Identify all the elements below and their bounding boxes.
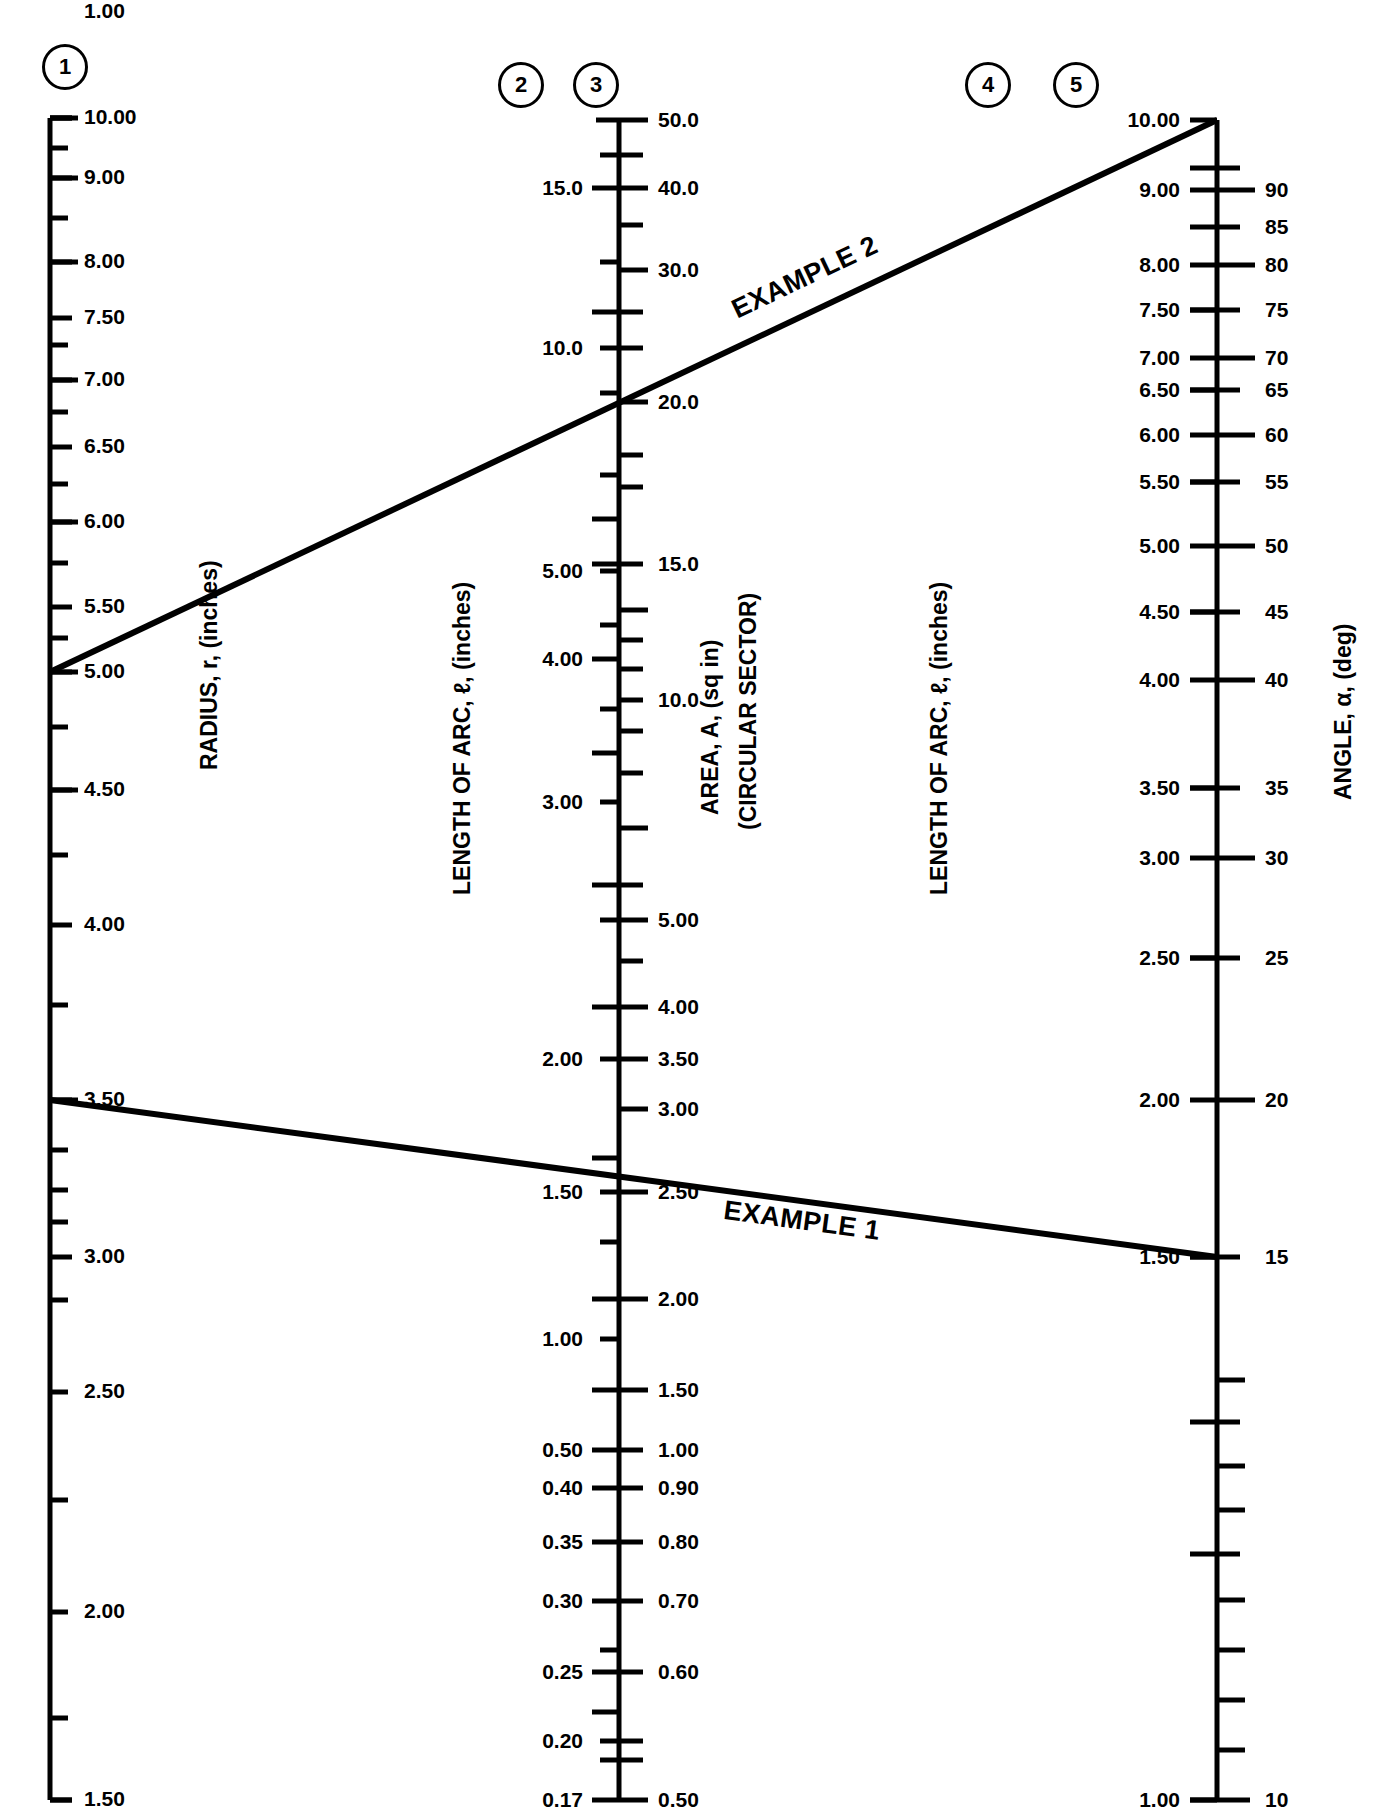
scale-4-tick-label: 3.50 (0, 777, 1180, 798)
scale-1-tick-label: 1.00 (84, 0, 125, 21)
scale-5-tick-label: 45 (1265, 601, 1288, 622)
scale-4-tick-label: 2.50 (0, 947, 1180, 968)
scale-3-tick-label: 1.00 (658, 1439, 699, 1460)
scale-5-tick-label: 25 (1265, 947, 1288, 968)
example-1-line (50, 1100, 1217, 1257)
scale-2-tick-label: 0.35 (0, 1531, 583, 1552)
scale-marker-4: 4 (965, 62, 1011, 108)
scale-4-tick-label: 1.00 (0, 1789, 1180, 1810)
scale-2-tick-label: 1.00 (0, 1328, 583, 1349)
scale-5-tick-label: 15 (1265, 1246, 1288, 1267)
scale-5-tick-label: 70 (1265, 347, 1288, 368)
scale-4-tick-label: 7.00 (0, 347, 1180, 368)
scale-3-tick-label: 1.50 (658, 1379, 699, 1400)
scale-3-tick-label: 0.60 (658, 1661, 699, 1682)
scale-5-tick-label: 90 (1265, 179, 1288, 200)
scale-3-tick-label: 3.50 (658, 1048, 699, 1069)
scale-4-tick-label: 10.00 (0, 109, 1180, 130)
scale-4-tick-label: 5.00 (0, 535, 1180, 556)
scale-4-tick-label: 9.00 (0, 179, 1180, 200)
scale-marker-3: 3 (573, 62, 619, 108)
scale-1-tick-label: 2.50 (84, 1380, 125, 1401)
scale-3-tick-label: 2.00 (658, 1288, 699, 1309)
scale-5-tick-label: 85 (1265, 216, 1288, 237)
scale-4-tick-label: 2.00 (0, 1089, 1180, 1110)
scale-5-tick-label: 50 (1265, 535, 1288, 556)
scale-5-tick-label: 60 (1265, 424, 1288, 445)
scale-2-tick-label: 0.20 (0, 1730, 583, 1751)
scale-5-ticks (1190, 168, 1255, 1800)
scale-5-tick-label: 75 (1265, 299, 1288, 320)
scale-3-tick-label: 15.0 (658, 553, 699, 574)
scale-5-tick-label: 80 (1265, 254, 1288, 275)
scale-marker-2: 2 (498, 62, 544, 108)
scale-1-tick-label: 6.00 (84, 510, 125, 531)
scale-3-tick-label: 0.80 (658, 1531, 699, 1552)
scale-3-tick-label: 4.00 (658, 996, 699, 1017)
scale-marker-5: 5 (1053, 62, 1099, 108)
scale-4-tick-label: 5.50 (0, 471, 1180, 492)
scale-5-tick-label: 40 (1265, 669, 1288, 690)
scale-5-tick-label: 65 (1265, 379, 1288, 400)
scale-4-tick-label: 4.00 (0, 669, 1180, 690)
scale-5-tick-label: 10 (1265, 1789, 1288, 1810)
scale-2-tick-label: 1.50 (0, 1181, 583, 1202)
scale-4-tick-label: 3.00 (0, 847, 1180, 868)
scale-2-tick-label: 0.30 (0, 1590, 583, 1611)
scale-2-tick-label: 0.25 (0, 1661, 583, 1682)
scale-5-tick-label: 35 (1265, 777, 1288, 798)
scale-1-tick-label: 4.00 (84, 913, 125, 934)
scale-3-tick-label: 2.50 (658, 1181, 699, 1202)
scale-4-tick-label: 8.00 (0, 254, 1180, 275)
scale-2-tick-label: 5.00 (0, 560, 583, 581)
scale-marker-1: 1 (42, 44, 88, 90)
scale-2-tick-label: 0.50 (0, 1439, 583, 1460)
scale-2-tick-label: 2.00 (0, 1048, 583, 1069)
scale-5-tick-label: 20 (1265, 1089, 1288, 1110)
scale-4-tick-label: 4.50 (0, 601, 1180, 622)
scale-5-tick-label: 55 (1265, 471, 1288, 492)
scale-4-tick-label: 1.50 (0, 1246, 1180, 1267)
axis-title-angle: ANGLE, α, (deg) (1330, 624, 1357, 800)
scale-3-tick-label: 5.00 (658, 909, 699, 930)
scale-3-tick-label: 0.70 (658, 1590, 699, 1611)
scale-2-tick-label: 0.40 (0, 1477, 583, 1498)
scale-3-tick-label: 0.90 (658, 1477, 699, 1498)
scale-5-tick-label: 30 (1265, 847, 1288, 868)
scale-4-tick-label: 6.50 (0, 379, 1180, 400)
scale-4-tick-label: 6.00 (0, 424, 1180, 445)
scale-4-tick-label: 7.50 (0, 299, 1180, 320)
scale-3-tick-label: 10.0 (658, 689, 699, 710)
scale-2-tick-label: 4.00 (0, 648, 583, 669)
